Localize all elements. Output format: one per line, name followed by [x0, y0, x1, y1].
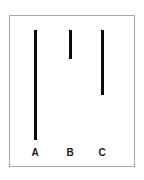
bars-area: A B C: [10, 16, 134, 166]
bar-label-a: A: [28, 147, 42, 158]
bar-label-b: B: [63, 147, 77, 158]
bar-label-c: C: [95, 147, 109, 158]
bar-c[interactable]: [101, 30, 104, 95]
bar-b[interactable]: [69, 30, 72, 59]
plot-frame: A B C: [9, 15, 135, 167]
bar-a[interactable]: [34, 30, 37, 140]
figure-canvas: A B C: [0, 0, 144, 180]
